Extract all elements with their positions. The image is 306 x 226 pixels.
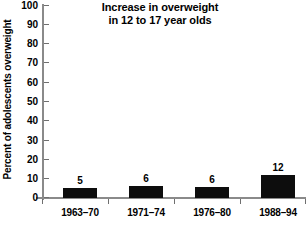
y-tick-label-0: 0 — [12, 193, 38, 203]
y-tick-label-100: 100 — [12, 1, 38, 11]
y-tick-mark-60 — [44, 82, 49, 83]
x-tick-mark-2 — [174, 199, 175, 204]
y-tick-mark-0 — [44, 197, 49, 198]
bar-value-1988-94: 12 — [261, 163, 295, 173]
y-tick-label-10: 10 — [12, 174, 38, 184]
y-tick-label-50: 50 — [12, 97, 38, 107]
bar-1963-70 — [63, 188, 97, 198]
y-tick-label-80: 80 — [12, 39, 38, 49]
bar-value-1971-74: 6 — [129, 174, 163, 184]
y-tick-mark-10 — [44, 178, 49, 179]
bar-1988-94 — [261, 175, 295, 198]
y-tick-label-70: 70 — [12, 58, 38, 68]
y-tick-mark-70 — [44, 62, 49, 63]
y-tick-mark-40 — [44, 120, 49, 121]
y-tick-mark-100 — [44, 5, 49, 6]
x-category-label-1971-74: 1971–74 — [113, 207, 179, 218]
y-tick-mark-50 — [44, 101, 49, 102]
y-tick-mark-30 — [44, 140, 49, 141]
y-tick-label-20: 20 — [12, 155, 38, 165]
y-tick-mark-90 — [44, 24, 49, 25]
x-category-label-1988-94: 1988–94 — [245, 207, 306, 218]
x-tick-mark-3 — [240, 199, 241, 204]
y-tick-label-30: 30 — [12, 136, 38, 146]
y-tick-mark-20 — [44, 159, 49, 160]
bar-1971-74 — [129, 186, 163, 198]
bar-chart: Increase in overweight in 12 to 17 year … — [0, 0, 306, 226]
y-tick-mark-80 — [44, 43, 49, 44]
x-tick-mark-4 — [305, 199, 306, 204]
bar-value-1963-70: 5 — [63, 176, 97, 186]
bar-1976-80 — [195, 187, 229, 198]
y-tick-label-40: 40 — [12, 116, 38, 126]
x-tick-mark-1 — [108, 199, 109, 204]
bar-value-1976-80: 6 — [195, 175, 229, 185]
x-category-label-1976-80: 1976–80 — [179, 207, 245, 218]
y-tick-label-90: 90 — [12, 20, 38, 30]
x-tick-mark-0 — [42, 199, 43, 204]
x-category-label-1963-70: 1963–70 — [47, 207, 113, 218]
y-tick-label-60: 60 — [12, 78, 38, 88]
